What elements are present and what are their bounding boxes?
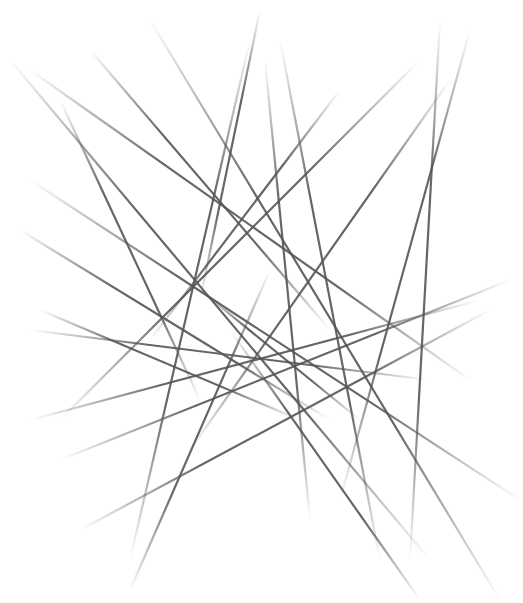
line-stroke: [60, 280, 510, 460]
line-stroke: [340, 30, 470, 500]
line-stroke: [150, 90, 340, 340]
line-stroke: [60, 100, 200, 400]
line-stroke: [40, 310, 300, 420]
line-stroke: [150, 20, 500, 600]
line-stroke: [90, 50, 330, 330]
line-stroke: [130, 270, 270, 590]
line-stroke: [230, 330, 420, 600]
abstract-lines-artwork: [0, 0, 523, 603]
lines-group: [10, 10, 520, 600]
line-stroke: [30, 330, 430, 380]
line-stroke: [200, 10, 260, 300]
